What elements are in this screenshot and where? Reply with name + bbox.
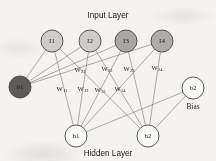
weight-subscript-w22: 22 <box>108 68 112 73</box>
node-group-hidden: h1h2 <box>65 125 159 147</box>
weight-label-w14: W14 <box>114 85 126 93</box>
edge-group-bias2-to-hidden <box>86 92 185 132</box>
bias-connection-b2-h1 <box>86 92 183 132</box>
weight-subscript-w13: 13 <box>101 89 106 94</box>
weight-subscript-w14: 14 <box>121 88 126 93</box>
neural-network-svg: I1I2I3I4 h1h2 b1b2 W21W22W23W24W11W12W13… <box>0 0 216 161</box>
weight-label-w22: W22 <box>101 65 112 73</box>
weight-label-group: W21W22W23W24W11W12W13W14 <box>57 64 164 94</box>
weight-subscript-w11: 11 <box>63 88 67 93</box>
node-label-i2: I2 <box>87 37 93 45</box>
node-label-b2: b2 <box>190 84 198 92</box>
weight-label-w13: W13 <box>94 86 106 94</box>
weight-subscript-w24: 24 <box>158 67 163 72</box>
weight-label-w23: W23 <box>123 65 135 73</box>
weight-subscript-w12: 12 <box>84 88 88 93</box>
weight-subscript-w23: 23 <box>130 68 135 73</box>
weight-subscript-w21: 21 <box>81 69 85 74</box>
node-label-h1: h1 <box>73 132 81 140</box>
figure-canvas: I1I2I3I4 h1h2 b1b2 W21W22W23W24W11W12W13… <box>0 0 216 161</box>
input-layer-title: Input Layer <box>88 11 129 20</box>
node-label-b1: b1 <box>17 83 25 91</box>
edge-group-input-to-hidden <box>55 49 161 129</box>
node-label-i3: I3 <box>123 37 129 45</box>
node-label-i1: I1 <box>49 37 55 45</box>
bias-caption-label: Bias <box>186 102 199 111</box>
bias-connection-b2-h2 <box>156 96 186 128</box>
node-label-h2: h2 <box>145 132 153 140</box>
weight-label-w21: W21 <box>74 66 85 74</box>
connection-i3-h2 <box>128 52 145 126</box>
node-label-i4: I4 <box>159 37 165 45</box>
node-group-input: I1I2I3I4 <box>41 30 173 52</box>
weight-label-w24: W24 <box>151 64 163 72</box>
bias-connection-b1-i1 <box>26 50 45 78</box>
weight-label-w12: W12 <box>77 85 88 93</box>
weight-label-w11: W11 <box>57 85 68 93</box>
hidden-layer-title: Hidden Layer <box>84 149 133 158</box>
